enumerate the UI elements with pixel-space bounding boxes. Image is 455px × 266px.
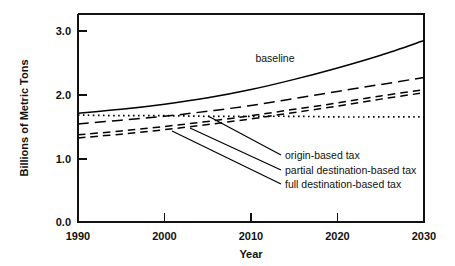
y-tick-label-3: 3.0 <box>56 25 71 37</box>
x-tick-label-2030: 2030 <box>412 230 436 242</box>
x-axis-title: Year <box>239 248 263 260</box>
axis-frame <box>78 14 424 222</box>
series-origin-based-tax <box>78 77 424 123</box>
series-full-destination-based-tax <box>78 93 424 138</box>
x-axis-ticks <box>78 213 424 222</box>
annotation-leader-lines <box>172 116 281 184</box>
annotation-baseline: baseline <box>255 52 294 64</box>
line-chart: 3.0 2.0 1.0 0.0 1990 2000 2010 2020 2030… <box>0 0 455 266</box>
y-axis-tick-labels: 3.0 2.0 1.0 0.0 <box>56 25 71 228</box>
plot-axes <box>78 14 424 222</box>
annotation-full-destination-based-tax: full destination-based tax <box>285 178 402 190</box>
annotation-partial-destination-based-tax: partial destination-based tax <box>285 164 417 176</box>
y-tick-label-0: 0.0 <box>56 216 71 228</box>
x-axis-tick-labels: 1990 2000 2010 2020 2030 <box>66 230 436 242</box>
leader-line-partial-destination-based-tax <box>190 128 281 170</box>
x-tick-label-1990: 1990 <box>66 230 90 242</box>
series-group <box>78 41 424 138</box>
x-tick-label-2020: 2020 <box>325 230 349 242</box>
x-tick-label-2000: 2000 <box>152 230 176 242</box>
annotation-origin-based-tax: origin-based tax <box>285 149 360 161</box>
series-baseline <box>78 41 424 114</box>
chart-figure: 3.0 2.0 1.0 0.0 1990 2000 2010 2020 2030… <box>0 0 455 266</box>
y-axis-title: Billions of Metric Tons <box>18 59 30 176</box>
series-1990-level <box>78 115 424 117</box>
leader-line-full-destination-based-tax <box>172 131 281 184</box>
series-partial-destination-based-tax <box>78 90 424 135</box>
y-tick-label-1: 1.0 <box>56 153 71 165</box>
x-tick-label-2010: 2010 <box>239 230 263 242</box>
y-tick-label-2: 2.0 <box>56 89 71 101</box>
leader-line-origin-based-tax <box>208 116 281 155</box>
y-axis-ticks <box>78 31 87 222</box>
